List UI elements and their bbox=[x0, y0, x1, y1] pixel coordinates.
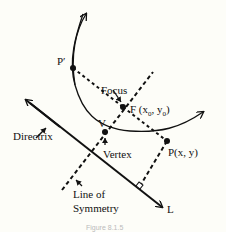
label-vertex: Vertex bbox=[103, 148, 132, 160]
label-focus-point: F (x0, y0) bbox=[130, 103, 170, 118]
segment-p-directrix bbox=[140, 141, 167, 186]
figure-caption: Figure 8.1.5 bbox=[86, 224, 123, 232]
directrix-line-start bbox=[26, 100, 60, 127]
symmetry-pointer-arrow bbox=[76, 180, 82, 186]
point-focus bbox=[120, 104, 126, 110]
point-vertex bbox=[102, 129, 108, 135]
label-line-of: Line of bbox=[73, 188, 105, 200]
label-focus: Focus bbox=[101, 84, 127, 96]
label-symmetry: Symmetry bbox=[73, 202, 119, 214]
label-directrix: Directrix bbox=[13, 130, 53, 142]
parabola-diagram: P′ Focus F (x0, y0) V Vertex P(x, y) Dir… bbox=[0, 0, 226, 232]
label-line-l: L bbox=[167, 203, 174, 215]
point-p-prime bbox=[70, 65, 76, 71]
label-point-p: P(x, y) bbox=[168, 146, 198, 159]
label-p-prime: P′ bbox=[57, 55, 66, 67]
point-p bbox=[164, 138, 170, 144]
label-vertex-point: V bbox=[98, 117, 106, 129]
